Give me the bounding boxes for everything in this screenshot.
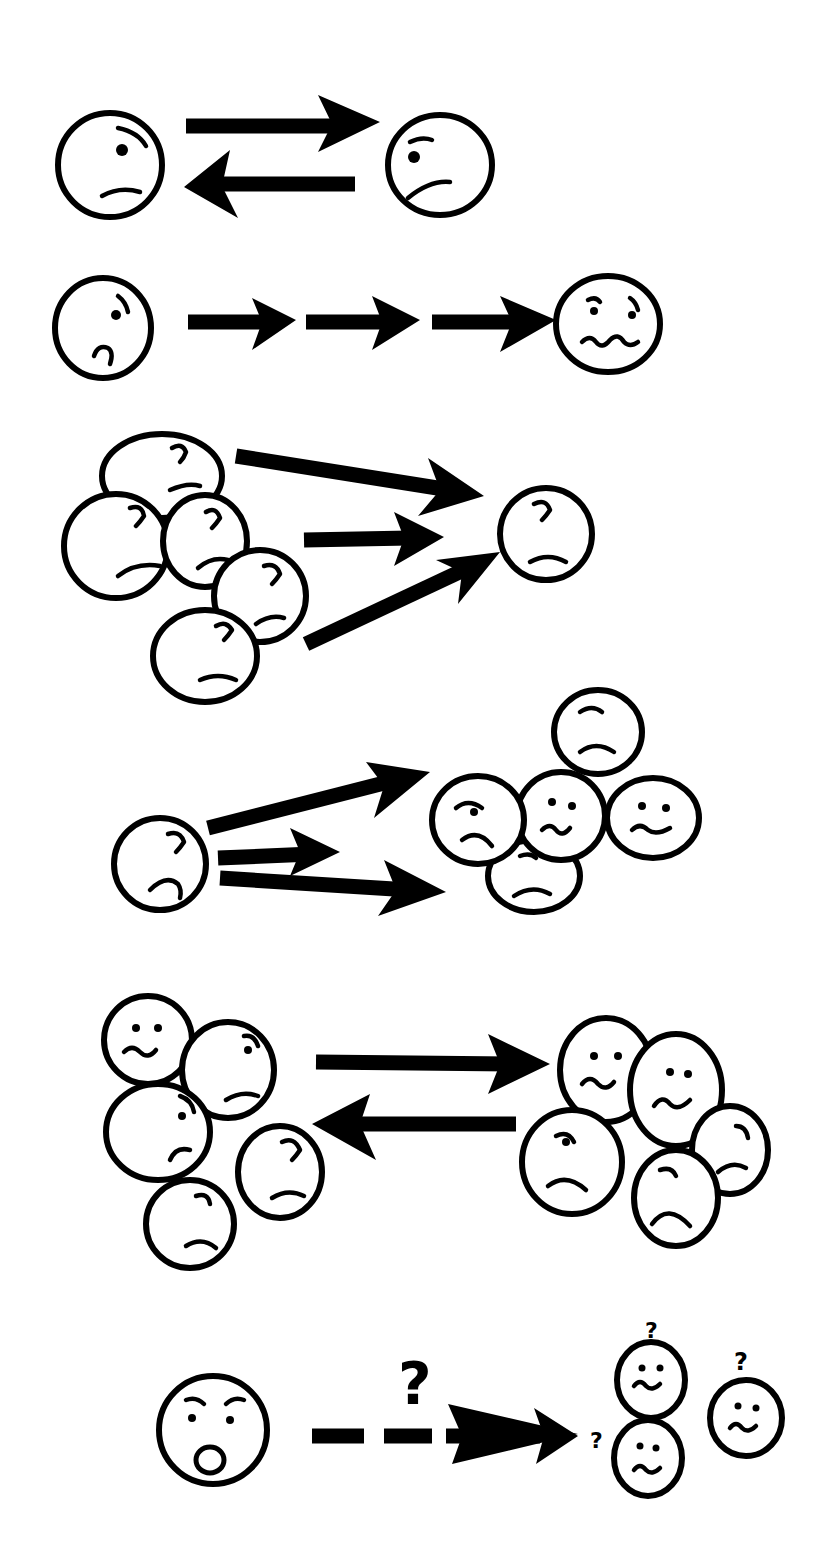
confused-group: ? ? ?: [590, 1318, 782, 1496]
arrow-left-icon: [184, 150, 355, 218]
arrow-right-icon: [306, 296, 420, 350]
sad-face-icon: [58, 113, 162, 217]
sad-face-icon: [238, 1126, 322, 1218]
question-mark-icon: ?: [590, 1428, 603, 1453]
shouting-face-icon: [159, 1376, 267, 1484]
worried-face-icon: [617, 1342, 685, 1418]
arrow-right-icon: [236, 456, 484, 516]
worried-face-icon: [614, 1420, 682, 1496]
sad-face-icon: [106, 1084, 210, 1180]
sad-face-icon: [388, 115, 492, 215]
sad-face-icon: [153, 610, 257, 702]
arrow-right-icon: [306, 552, 500, 644]
group-of-faces: [432, 690, 699, 912]
row-many-to-one: [64, 434, 592, 702]
worried-face-icon: [556, 276, 660, 372]
right-group-of-faces: [522, 1018, 768, 1246]
arrow-left-icon: [312, 1094, 516, 1160]
sad-face-icon: [114, 818, 206, 910]
row-one-to-many: [114, 690, 699, 916]
worried-face-icon: [607, 778, 699, 858]
sad-face-icon: [500, 488, 592, 580]
row-one-to-one-two-way: [58, 95, 492, 218]
row-chain-relay: [55, 276, 660, 378]
worried-face-icon: [517, 772, 605, 860]
group-of-faces: [64, 434, 306, 702]
worried-face-icon: [104, 996, 192, 1084]
arrow-right-icon: [208, 762, 430, 828]
arrow-right-icon: [186, 95, 380, 152]
row-many-to-many-two-way: [104, 996, 768, 1268]
worried-face-icon: [710, 1380, 782, 1456]
sad-face-icon: [432, 776, 524, 864]
arrow-right-icon: [432, 296, 556, 352]
sad-face-icon: [64, 494, 168, 598]
sad-face-icon: [522, 1110, 622, 1214]
row-broken-broadcast: ?: [159, 1318, 782, 1496]
dashed-arrow-icon: [312, 1404, 578, 1464]
sad-face-icon: [55, 278, 151, 378]
arrow-right-icon: [220, 860, 446, 916]
question-mark-icon: ?: [734, 1348, 748, 1376]
sad-face-icon: [554, 690, 642, 774]
sad-face-icon: [634, 1150, 718, 1246]
arrow-right-icon: [218, 828, 340, 876]
arrow-right-icon: [304, 512, 444, 566]
arrow-right-icon: [188, 298, 296, 350]
left-group-of-faces: [104, 996, 322, 1268]
question-mark-icon: ?: [645, 1318, 658, 1343]
arrow-right-icon: [316, 1034, 550, 1094]
sad-face-icon: [146, 1180, 234, 1268]
question-mark-icon: ?: [398, 1350, 432, 1418]
